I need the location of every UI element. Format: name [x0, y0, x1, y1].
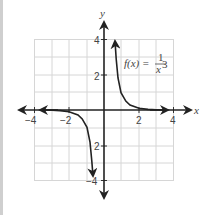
tick-label-y: 4	[94, 35, 100, 46]
tick-label-y: 2	[94, 71, 100, 82]
tick-label-x: −4	[25, 115, 37, 126]
tick-label-y: −4	[86, 176, 98, 187]
tick-label-x: 2	[136, 115, 142, 126]
y-axis-label: y	[99, 7, 105, 19]
formula-lhs: f(x) =	[124, 57, 149, 70]
tick-label-x: 4	[170, 115, 176, 126]
x-axis-label: x	[193, 104, 199, 116]
function-formula: f(x) = 1 x 3	[124, 51, 168, 75]
formula-exponent: 3	[162, 58, 168, 70]
tick-label-y: 2	[94, 141, 100, 152]
function-graph: y x −4 −2 2 4 4 2 2 −4 f(x) = 1 x 3	[0, 0, 206, 215]
formula-denominator: x	[155, 63, 161, 75]
tick-label-x: −2	[60, 115, 72, 126]
